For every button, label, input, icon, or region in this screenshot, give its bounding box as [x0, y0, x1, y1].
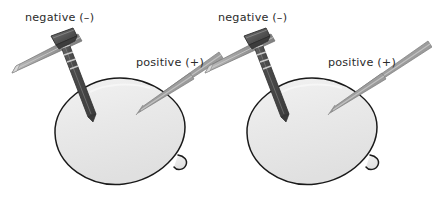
diagram-canvas: negative (–) positive (+): [0, 0, 432, 204]
label-positive-right: positive (+): [328, 56, 396, 69]
label-negative-right: negative (–): [218, 11, 287, 24]
label-negative-left: negative (–): [25, 11, 94, 24]
label-positive-left: positive (+): [136, 56, 204, 69]
lemon-battery-diagram: negative (–) positive (+): [0, 0, 432, 204]
